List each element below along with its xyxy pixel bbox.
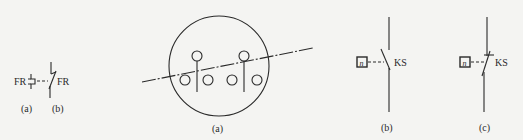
caption-b: (b) <box>381 122 393 134</box>
outer-circle <box>169 16 269 116</box>
fr-label: FR <box>14 76 27 87</box>
pin-circle <box>180 75 190 85</box>
pin-circle <box>203 75 213 85</box>
relay-box-text: n <box>360 59 364 68</box>
relay-box-text: n <box>463 59 467 68</box>
caption-a: (a) <box>212 123 223 135</box>
pin-circle <box>252 75 262 85</box>
ks-label: KS <box>394 57 407 68</box>
nc-contact-symbol <box>49 62 56 98</box>
pin-circle <box>239 51 249 61</box>
pin-circle <box>227 75 237 85</box>
diagram-canvas: FR FR (a) (b) (a) n KS (b) n KS (c) <box>0 0 523 140</box>
fr-label: FR <box>57 76 70 87</box>
caption-c: (c) <box>479 122 490 134</box>
no-contact-blade <box>381 49 390 70</box>
diagram-svg: FR FR (a) (b) (a) n KS (b) n KS (c) <box>0 0 523 140</box>
pin-circle <box>192 51 202 61</box>
caption-a: (a) <box>21 103 32 115</box>
thermal-element-symbol <box>28 74 35 89</box>
caption-b: (b) <box>52 103 64 115</box>
ks-label: KS <box>495 57 508 68</box>
